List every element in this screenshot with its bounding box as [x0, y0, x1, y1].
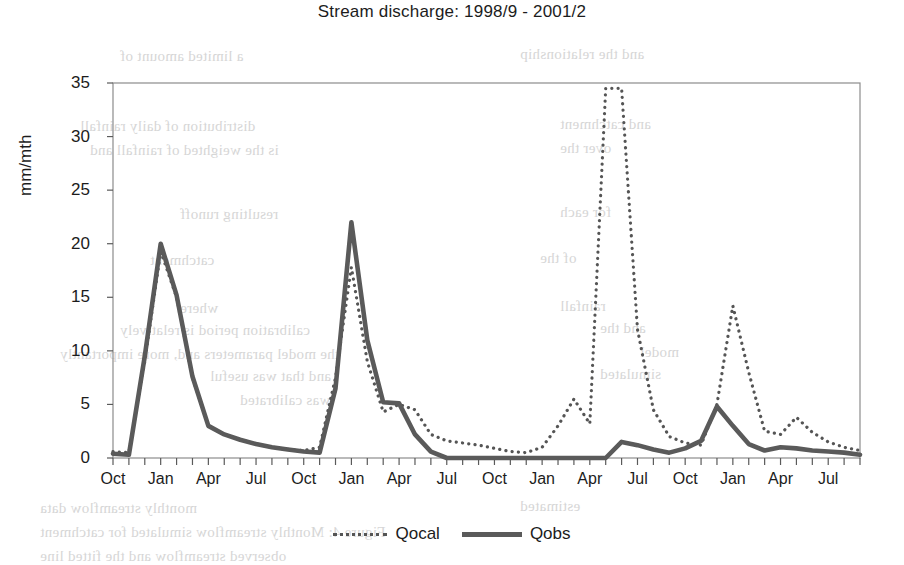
dotted-line-swatch-icon	[333, 533, 387, 536]
legend-label-qocal: Qocal	[395, 524, 439, 544]
legend-entry-qocal: Qocal	[333, 524, 439, 544]
plot-frame	[113, 83, 860, 458]
chart-legend: Qocal Qobs	[0, 524, 904, 544]
series-line-qobs	[113, 222, 860, 458]
solid-line-swatch-icon	[462, 532, 522, 537]
series-line-qocal	[113, 88, 860, 452]
legend-entry-qobs: Qobs	[462, 524, 571, 544]
legend-label-qobs: Qobs	[530, 524, 571, 544]
